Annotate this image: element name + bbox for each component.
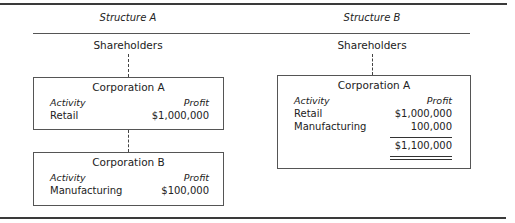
corporation-name: Corporation B [34, 156, 223, 168]
activity-value: Manufacturing [50, 185, 122, 196]
structure-a-shareholders: Shareholders [28, 39, 228, 51]
bottom-rule [0, 217, 506, 219]
activity-value: Retail [50, 110, 78, 121]
total-double-rule [390, 156, 452, 157]
profit-value: 100,000 [411, 121, 452, 132]
profit-header: Profit [427, 95, 452, 106]
total-double-rule-lower [390, 159, 452, 160]
profit-value: $1,000,000 [152, 110, 209, 121]
subtotal-rule [390, 137, 452, 138]
structure-a-title: Structure A [28, 12, 228, 23]
activity-header: Activity [50, 97, 86, 108]
connector-shareholders-corp-a [128, 54, 129, 77]
profit-value: $1,000,000 [395, 108, 452, 119]
total-value: $1,100,000 [395, 140, 452, 151]
activity-header: Activity [294, 95, 330, 106]
activity-value: Manufacturing [294, 121, 366, 132]
profit-header: Profit [184, 97, 209, 108]
structure-a-corporation-a-box: Corporation A Activity Profit Retail $1,… [33, 77, 224, 130]
structure-a-corporation-b-box: Corporation B Activity Profit Manufactur… [33, 152, 224, 206]
connector-corp-a-corp-b [128, 130, 129, 152]
corporation-name: Corporation A [278, 79, 470, 91]
activity-header: Activity [50, 172, 86, 183]
connector-shareholders-corp-a [372, 54, 373, 75]
header-rule [33, 33, 470, 34]
structure-b-shareholders: Shareholders [272, 39, 472, 51]
structure-b-corporation-a-box: Corporation A Activity Profit Retail $1,… [277, 75, 471, 169]
top-rule [0, 3, 507, 5]
activity-value: Retail [294, 108, 322, 119]
profit-header: Profit [184, 172, 209, 183]
profit-value: $100,000 [161, 185, 209, 196]
corporation-name: Corporation A [34, 81, 223, 93]
structure-b-title: Structure B [272, 12, 472, 23]
